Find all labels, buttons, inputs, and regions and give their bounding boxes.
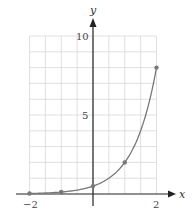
x-axis-arrow-icon	[168, 191, 176, 198]
data-point	[154, 65, 158, 69]
x-tick-label-neg2: −2	[23, 199, 38, 210]
y-axis-arrow-icon	[90, 18, 97, 27]
data-point	[59, 190, 63, 194]
exponential-chart: x y −2 2 5 10	[0, 0, 194, 218]
y-tick-label-10: 10	[76, 31, 89, 42]
data-point	[27, 191, 31, 195]
tick-labels: x y −2 2 5 10	[23, 4, 186, 210]
y-axis-label: y	[89, 4, 97, 17]
y-tick-label-5: 5	[82, 110, 88, 121]
x-axis-label: x	[179, 188, 186, 201]
x-tick-label-2: 2	[153, 199, 159, 210]
data-point	[123, 160, 127, 164]
data-point	[91, 184, 95, 188]
